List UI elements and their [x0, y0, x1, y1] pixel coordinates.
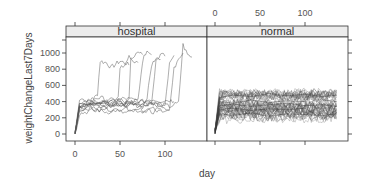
- x-axis-title: day: [199, 168, 215, 179]
- x-tick-label: 100: [157, 149, 172, 159]
- x-axis-top: 050100: [75, 8, 313, 26]
- strip-label-normal: normal: [261, 25, 295, 37]
- y-axis-title: weightChangeLast7Days: [23, 32, 34, 144]
- x-tick-label-top: 50: [255, 8, 265, 18]
- panel-hospital: hospital: [66, 25, 207, 141]
- y-axis-right: [348, 40, 352, 134]
- panel-normal: normal: [207, 25, 348, 141]
- y-tick-label: 200: [45, 113, 60, 123]
- y-tick-label: 0: [55, 129, 60, 139]
- y-tick-label: 800: [45, 64, 60, 74]
- lattice-line-chart: weightChangeLast7Days day hospital norma…: [0, 0, 369, 189]
- y-axis-left: 02004006008001000: [40, 40, 66, 139]
- x-tick-label-top: 100: [297, 8, 312, 18]
- strip-label-hospital: hospital: [118, 25, 156, 37]
- plot-area-normal: [207, 37, 348, 141]
- x-axis-bottom: 050100: [72, 141, 305, 159]
- x-tick-label: 50: [115, 149, 125, 159]
- y-tick-label: 400: [45, 97, 60, 107]
- y-tick-label: 600: [45, 80, 60, 90]
- x-tick-label: 0: [72, 149, 77, 159]
- y-tick-label: 1000: [40, 48, 60, 58]
- x-tick-label-top: 0: [212, 8, 217, 18]
